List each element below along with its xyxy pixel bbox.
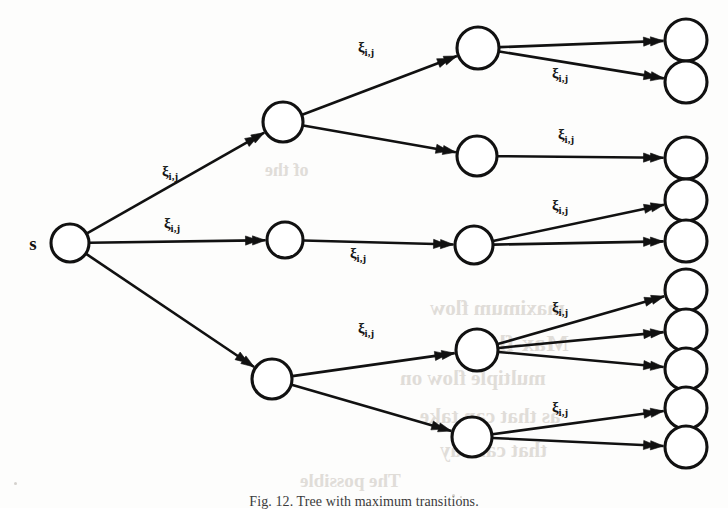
edge-weight-subscript: i,j [357, 252, 366, 264]
edge-weight-subscript: i,j [565, 133, 574, 145]
tree-edge [87, 133, 264, 234]
internal-node [263, 102, 303, 142]
leaf-node [665, 220, 707, 262]
edge-weight-subscript: i,j [169, 170, 178, 182]
edge-weight-subscript: i,j [559, 204, 568, 216]
internal-node [457, 27, 499, 69]
tree-edge [89, 236, 265, 245]
tree-edge [497, 153, 663, 162]
leaf-node [665, 348, 707, 390]
edges-group [86, 37, 664, 450]
source-node-label: s [29, 233, 36, 254]
tree-edge [493, 237, 663, 246]
internal-node [452, 417, 492, 457]
edge-weight-label: ξi,j [350, 245, 366, 264]
tree-edge [492, 438, 663, 450]
leaf-node [665, 61, 707, 103]
leaf-node [665, 179, 707, 221]
edge-weight-subscript: i,j [559, 72, 568, 84]
tree-edge [499, 51, 664, 80]
tree-edge [302, 56, 457, 115]
tree-edge [498, 295, 665, 344]
leaf-node [665, 19, 707, 61]
edge-weight-subscript: i,j [365, 327, 374, 339]
edge-weight-subscript: i,j [559, 406, 568, 418]
leaf-node [665, 137, 707, 179]
edge-weight-label: ξi,j [358, 39, 374, 58]
edge-weight-label: ξi,j [164, 215, 180, 234]
edge-weight-label: ξi,j [552, 399, 568, 418]
edge-weight-label: ξi,j [358, 320, 374, 339]
tree-edge [499, 37, 663, 47]
tree-edge [292, 350, 454, 376]
internal-node [455, 226, 493, 264]
tree-edge [303, 126, 456, 155]
leaf-node [665, 426, 707, 468]
internal-node [456, 329, 498, 371]
edge-weight-label: ξi,j [558, 126, 574, 145]
edge-weight-subscript: i,j [365, 46, 374, 58]
leaf-node [665, 309, 707, 351]
paper-speck [14, 482, 17, 485]
edge-weight-label: ξi,j [552, 197, 568, 216]
internal-node [252, 359, 292, 399]
leaf-node [665, 387, 707, 429]
edge-labels-group: ξi,jξi,jξi,jξi,jξi,jξi,jξi,jξi,jξi,jξi,j [162, 39, 574, 418]
tree-edge [498, 329, 663, 348]
tree-edge [303, 239, 453, 248]
internal-node [457, 136, 497, 176]
source-node [51, 224, 89, 262]
tree-edge [86, 254, 254, 367]
tree-edge [292, 385, 452, 432]
edge-weight-subscript: i,j [559, 306, 568, 318]
edge-weight-label: ξi,j [162, 163, 178, 182]
tree-edge [492, 408, 663, 434]
internal-node [267, 222, 303, 258]
figure-caption: Fig. 12. Tree with maximum transitions. [0, 494, 728, 510]
paper-speck [452, 494, 455, 497]
tree-edge [493, 203, 664, 241]
edge-weight-label: ξi,j [552, 299, 568, 318]
leaf-node [665, 269, 707, 311]
tree-edge [498, 352, 663, 370]
edge-weight-label: ξi,j [552, 65, 568, 84]
paper-speck [460, 496, 462, 498]
edge-weight-subscript: i,j [171, 222, 180, 234]
